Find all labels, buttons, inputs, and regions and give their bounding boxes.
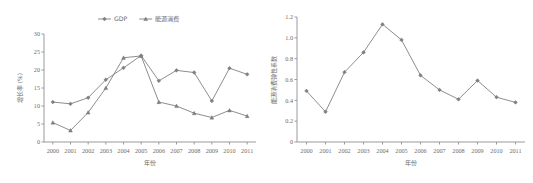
data-point [51,121,55,125]
x-tick-label: 2007 [170,147,182,154]
y-tick-label: 0 [290,138,293,145]
x-tick-label: 2006 [153,147,165,154]
x-tick-label: 2005 [135,147,147,154]
x-tick-label: 2000 [47,147,59,154]
y-axis-title: 能源消费弹性系数 [270,56,278,104]
legend-label-1: GDP [114,15,128,22]
data-point [514,101,518,105]
x-tick-label: 2006 [414,147,426,154]
line-chart-elasticity: 00.20.40.60.81.01.2200020012002200320042… [267,0,533,183]
line-chart-growth-rate: 0510152025302000200120022003200420052006… [0,0,266,183]
x-tick-label: 2008 [452,147,464,154]
y-tick-label: 0.8 [285,55,293,62]
x-axis-title: 年份 [405,159,417,167]
x-axis-title: 年份 [144,159,156,167]
y-tick-label: 0.2 [285,117,293,124]
y-tick-label: 0.6 [285,76,293,83]
data-point [104,86,108,90]
legend-label-2: 能源消费 [155,15,179,23]
y-tick-label: 10 [34,102,40,109]
x-tick-label: 2010 [223,147,235,154]
y-tick-label: 15 [34,84,40,91]
x-tick-label: 2004 [376,147,388,154]
x-tick-label: 2003 [100,147,112,154]
data-point [175,68,179,72]
chart-panel-left: 0510152025302000200120022003200420052006… [0,0,266,183]
figure-container: 0510152025302000200120022003200420052006… [0,0,533,183]
x-tick-label: 2002 [82,147,94,154]
data-point [69,102,73,106]
series-line-2 [53,56,247,131]
x-tick-label: 2010 [490,147,502,154]
data-point [228,108,232,112]
y-tick-label: 0 [37,138,40,145]
x-tick-label: 2009 [206,147,218,154]
chart-panel-right: 00.20.40.60.81.01.2200020012002200320042… [267,0,533,183]
y-tick-label: 0.4 [285,97,293,104]
y-tick-label: 1.2 [285,13,293,20]
y-tick-label: 25 [34,48,40,55]
x-tick-label: 2003 [357,147,369,154]
x-tick-label: 2007 [433,147,445,154]
legend-marker-1 [103,17,107,21]
y-tick-label: 5 [37,120,40,127]
x-tick-label: 2000 [300,147,312,154]
data-point [51,100,55,104]
x-tick-label: 2009 [471,147,483,154]
x-tick-label: 2005 [395,147,407,154]
x-tick-label: 2002 [338,147,350,154]
x-tick-label: 2011 [509,147,521,154]
y-axis-title: 增长率 (%) [16,73,24,103]
y-tick-label: 20 [34,66,40,73]
series-line-1 [307,24,516,112]
x-tick-label: 2001 [64,147,76,154]
x-tick-label: 2001 [319,147,331,154]
x-tick-label: 2011 [241,147,253,154]
x-tick-label: 2008 [188,147,200,154]
y-tick-label: 1.0 [285,34,293,41]
data-point [245,72,249,76]
x-tick-label: 2004 [117,147,129,154]
data-point [228,66,232,70]
y-tick-label: 30 [34,30,40,37]
